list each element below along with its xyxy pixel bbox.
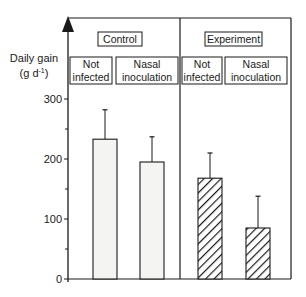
- y-tick-label: 0: [56, 273, 62, 285]
- chart: 0 100 200 300 Daily gain (g d-1) Control…: [0, 0, 306, 297]
- bar: [93, 139, 117, 279]
- svg-text:inoculation: inoculation: [122, 71, 172, 83]
- svg-text:Control: Control: [103, 33, 137, 45]
- y-tick-label: 200: [44, 153, 62, 165]
- y-axis-unit: (g d-1): [20, 67, 49, 79]
- y-axis-label: Daily gain: [10, 52, 58, 64]
- y-tick-label: 100: [44, 213, 62, 225]
- group-label-experiment: Experiment: [205, 32, 262, 46]
- svg-text:Nasal: Nasal: [134, 58, 161, 70]
- svg-text:Not: Not: [194, 58, 210, 70]
- svg-text:Not: Not: [83, 58, 99, 70]
- svg-text:infected: infected: [73, 71, 110, 83]
- svg-text:inoculation: inoculation: [231, 71, 281, 83]
- bar: [198, 178, 222, 279]
- bar: [246, 228, 270, 279]
- category-label-experiment-nasal: Nasal inoculation: [225, 57, 287, 84]
- svg-text:Experiment: Experiment: [207, 33, 260, 45]
- group-label-control: Control: [98, 32, 142, 46]
- category-label-experiment-not-infected: Not infected: [182, 57, 222, 84]
- bar: [140, 162, 164, 279]
- svg-text:infected: infected: [184, 71, 221, 83]
- y-tick-label: 300: [44, 93, 62, 105]
- category-label-control-not-infected: Not infected: [70, 57, 112, 84]
- category-label-control-nasal: Nasal inoculation: [116, 57, 178, 84]
- bars: [93, 110, 270, 279]
- svg-text:Nasal: Nasal: [243, 58, 270, 70]
